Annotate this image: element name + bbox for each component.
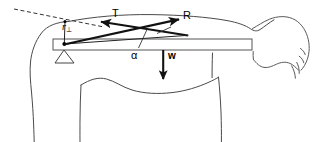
- lever-arm-label: r⊥: [62, 22, 72, 34]
- jaw-chin-outline: [254, 60, 299, 71]
- torso-right-edge: [219, 77, 222, 142]
- head-outline-group: [253, 17, 310, 79]
- hair-strand-2: [292, 66, 296, 78]
- shoulder-neck-top-line: [69, 15, 275, 31]
- weight-label: w: [168, 51, 176, 61]
- force-diagram-figure: T R w α r⊥: [0, 0, 329, 142]
- torso-top-curve: [81, 77, 219, 93]
- angle-alpha-label: α: [131, 50, 137, 61]
- lever-arm-perpendicular-subscript: ⊥: [66, 26, 72, 34]
- ear-mark-lower: [299, 56, 304, 63]
- tension-label: T: [112, 8, 119, 19]
- ear-mark-upper: [301, 49, 306, 55]
- diagram-canvas: [0, 0, 329, 142]
- torso-left-edge: [80, 85, 81, 142]
- torso-outline-group: [80, 53, 221, 142]
- fulcrum-triangle: [55, 50, 74, 63]
- reaction-label: R: [183, 10, 191, 21]
- body-outline-group: [30, 15, 274, 142]
- head-profile-outline: [253, 17, 310, 71]
- hair-strand-1: [297, 62, 299, 73]
